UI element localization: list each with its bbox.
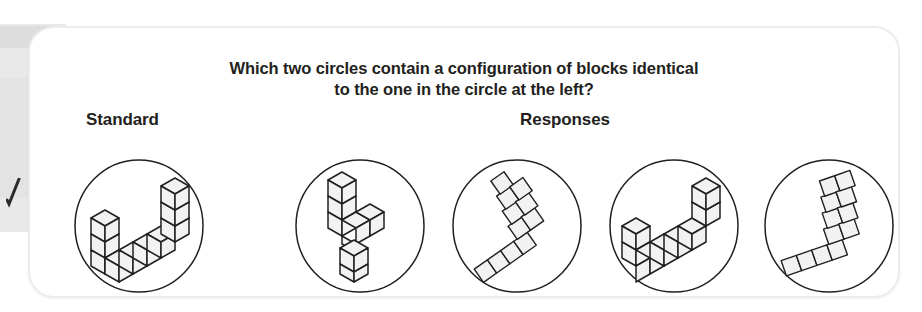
figure-page: Which two circles contain a configuratio… <box>0 0 922 312</box>
response-circle-2[interactable] <box>449 156 585 296</box>
question-prompt: Which two circles contain a configuratio… <box>30 58 898 100</box>
handwritten-pen-mark-icon <box>6 178 22 210</box>
standard-circle[interactable] <box>71 156 207 296</box>
column-label-responses: Responses <box>485 110 645 130</box>
response-circle-1[interactable] <box>292 156 428 296</box>
figure-card: Which two circles contain a configuratio… <box>28 26 900 298</box>
response-circle-3[interactable] <box>606 156 742 296</box>
column-label-standard: Standard <box>86 110 159 130</box>
question-line-1: Which two circles contain a configuratio… <box>30 58 898 79</box>
response-circle-4[interactable] <box>761 156 897 296</box>
question-line-2: to the one in the circle at the left? <box>30 79 898 100</box>
circles-row <box>30 156 902 296</box>
